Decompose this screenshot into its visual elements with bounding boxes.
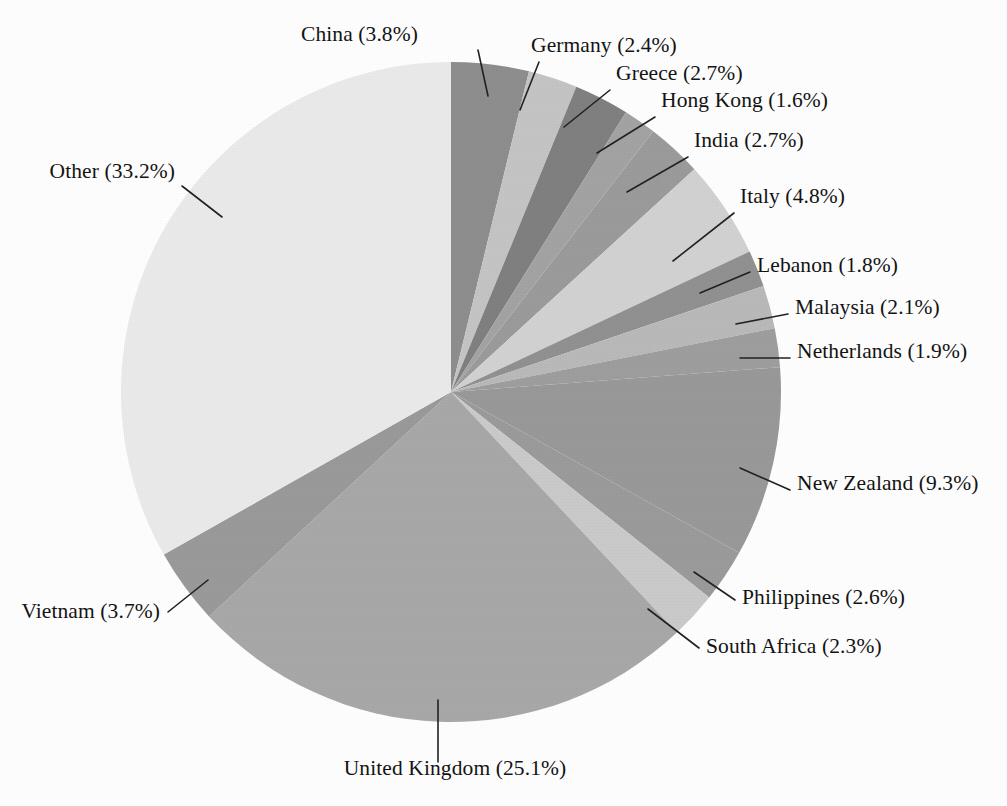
slice-label-united-kingdom: United Kingdom (25.1%) [344, 756, 567, 780]
slice-label-vietnam: Vietnam (3.7%) [21, 599, 160, 623]
slice-label-greece: Greece (2.7%) [616, 61, 743, 85]
slice-label-new-zealand: New Zealand (9.3%) [797, 471, 979, 495]
slice-label-china: China (3.8%) [301, 22, 418, 46]
slice-label-italy: Italy (4.8%) [740, 184, 845, 208]
slice-label-hong-kong: Hong Kong (1.6%) [661, 88, 828, 112]
slice-label-other: Other (33.2%) [50, 159, 175, 183]
slice-label-philippines: Philippines (2.6%) [742, 585, 905, 609]
chart-page: China (3.8%)Germany (2.4%)Greece (2.7%)H… [0, 0, 1007, 806]
slice-label-lebanon: Lebanon (1.8%) [757, 253, 898, 277]
slice-label-malaysia: Malaysia (2.1%) [795, 295, 940, 319]
slice-label-netherlands: Netherlands (1.9%) [797, 339, 967, 363]
pie-chart: China (3.8%)Germany (2.4%)Greece (2.7%)H… [0, 0, 1007, 806]
slice-label-south-africa: South Africa (2.3%) [706, 634, 882, 658]
slice-label-germany: Germany (2.4%) [531, 33, 677, 57]
slice-label-india: India (2.7%) [694, 128, 804, 152]
